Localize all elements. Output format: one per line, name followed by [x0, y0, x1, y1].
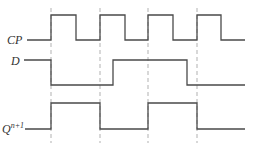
waveform-d — [24, 60, 245, 85]
label-cp: CP — [7, 33, 23, 47]
waveform-cp — [27, 15, 245, 40]
waveform-q — [25, 103, 245, 129]
clock-edge-guides — [51, 8, 197, 143]
label-q: Qn+1 — [2, 121, 24, 136]
signal-labels: CPDQn+1 — [2, 33, 24, 136]
timing-diagram: CPDQn+1 — [0, 0, 255, 153]
label-superscript: n+1 — [11, 121, 24, 130]
label-d: D — [10, 54, 20, 68]
signal-waveforms — [24, 15, 245, 129]
